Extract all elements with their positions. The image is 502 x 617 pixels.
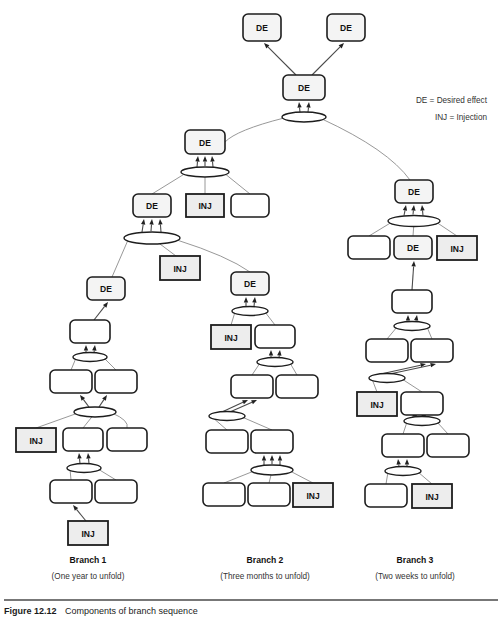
node-shape: [411, 339, 453, 362]
node-shape: [392, 290, 432, 313]
arrowhead: [277, 350, 281, 356]
node-b1-inj-top: INJ: [186, 194, 224, 217]
node-label: INJ: [173, 264, 187, 274]
edge-b2-d-child-0: [224, 471, 254, 483]
figure-diagram: DEDEDEDEDEINJINJDEINJINJDEINJINJDEDEINJI…: [0, 0, 502, 617]
arrowhead: [92, 345, 96, 351]
node-shape: [70, 320, 110, 343]
node-b1-blank-4: [63, 428, 103, 451]
node-shape: [366, 339, 408, 362]
and-connector-b2-a: [232, 307, 268, 316]
edge-b1-c-child-1: [104, 358, 116, 370]
edge-b2-c-child-1: [242, 417, 272, 430]
node-b3-blank-3: [366, 339, 408, 362]
edge-line: [94, 306, 105, 320]
edge-b3-blank2-to-de2: [411, 261, 415, 290]
caption-label: Figure 12.12 Components of branch sequen…: [4, 606, 198, 616]
branch-subtitle-1: (One year to unfold): [52, 572, 125, 581]
node-b1-blank-1: [70, 320, 110, 343]
edge-b3-conn-a-2: [411, 205, 415, 215]
node-b2-blank-3: [276, 375, 318, 398]
node-b1-de3: DE: [87, 277, 125, 300]
and-connector-b2-d: [251, 465, 293, 475]
node-b3-inj-1: INJ: [437, 236, 477, 260]
node-shape: [95, 480, 137, 503]
node-b1-blank-2: [50, 370, 92, 393]
edge-b1-conn-b-3: [158, 219, 162, 232]
edge-b3-conn-b-1: [406, 315, 410, 322]
node-b3-blank-5: [401, 392, 443, 415]
node-b2-blank-6: [203, 483, 245, 506]
arrowhead: [420, 205, 424, 211]
edge-b1-de3-to-conn: [112, 240, 128, 277]
node-label: DE: [407, 243, 419, 253]
edge-b1-conn-a-2: [203, 156, 207, 166]
node-label: INJ: [29, 436, 43, 446]
node-root: DE: [283, 75, 325, 100]
node-shape: [50, 480, 92, 503]
node-b3-blank-7: [427, 434, 469, 457]
branch-title-1: Branch 1: [70, 555, 107, 565]
node-b1-inj-mid: INJ: [160, 256, 200, 280]
node-shape: [95, 370, 137, 393]
arrowhead: [242, 400, 248, 404]
node-shape: [365, 484, 407, 507]
node-shape: [251, 430, 293, 453]
node-b1-de2: DE: [133, 194, 171, 217]
edge-b2-conn-b-1: [269, 350, 273, 358]
edge-b2-d-child-2: [290, 471, 313, 483]
edge-b3-b-child-0: [387, 327, 397, 339]
node-shape: [50, 370, 92, 393]
arrowhead: [397, 459, 401, 465]
legend-de-text: DE = Desired effect: [416, 96, 488, 105]
edge-line: [423, 211, 424, 216]
and-connector-b3-c: [369, 374, 405, 383]
arrowhead: [430, 363, 436, 367]
node-shape: [63, 428, 103, 451]
edge-b3-conn-a-1: [403, 205, 407, 216]
and-connector-b3-a: [388, 216, 440, 227]
edge-line: [404, 210, 405, 215]
arrowhead: [297, 102, 301, 108]
edge-b1-d-child-0: [36, 413, 78, 428]
edge-b1-conn-a-3: [210, 156, 214, 167]
node-label: INJ: [370, 400, 384, 410]
edge-b2-conn-b-2: [277, 350, 281, 358]
edge-conn-root-a: [297, 102, 301, 112]
node-shape: [401, 392, 443, 415]
branch-subtitle-2: (Three months to unfold): [220, 572, 310, 581]
node-label: DE: [298, 83, 310, 93]
edge-line: [312, 47, 340, 75]
edge-b1-injbot-to-blank6: [73, 505, 86, 521]
node-b3-blank-2: [392, 290, 432, 313]
and-connector-root: [282, 112, 326, 122]
edge-line: [160, 225, 161, 233]
arrowhead: [210, 156, 214, 162]
edge-b2-a-child-1: [265, 312, 275, 325]
and-connector-b3-e: [385, 467, 421, 476]
node-shape: [427, 434, 469, 457]
edge-line: [151, 225, 152, 232]
node-label: DE: [146, 201, 158, 211]
node-label: DE: [340, 23, 352, 33]
node-b3-blank-1: [348, 236, 390, 259]
arrowhead: [278, 455, 282, 461]
and-connector-b2-b: [257, 358, 293, 367]
arrowhead: [195, 156, 199, 162]
edge-b1-conn-d-1: [80, 395, 89, 407]
edge-b1-conn-c-1: [84, 345, 88, 353]
edge-b2-conn-d-2: [270, 455, 274, 464]
node-shape: [231, 375, 273, 398]
edge-b3-conn-c-2: [392, 363, 436, 374]
node-b2-blank-5: [251, 430, 293, 453]
edge-b1-child-0: [152, 173, 186, 194]
caption-rest: Components of branch sequence: [65, 606, 198, 616]
node-b2-inj-1: INJ: [211, 325, 251, 349]
arrowhead: [251, 400, 257, 404]
node-b1-inj-bot: INJ: [68, 521, 108, 545]
edge-b1-d-child-2: [112, 413, 127, 428]
edge-b1-blank1-to-de3: [94, 302, 108, 320]
edge-root-to-top-right: [312, 43, 344, 75]
edge-b3-c-child-1: [402, 379, 422, 392]
node-shape: [382, 434, 424, 457]
